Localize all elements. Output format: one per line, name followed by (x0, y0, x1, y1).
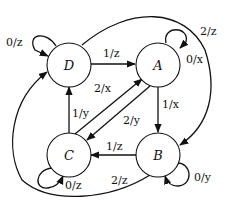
label-c-a: 2/x (94, 82, 112, 95)
label-c-d: 1/y (72, 107, 90, 120)
state-c: C (47, 133, 91, 177)
label-b-c: 1/z (106, 140, 123, 153)
state-d-label: D (63, 58, 75, 73)
label-c-c: 0/z (65, 179, 82, 192)
state-d: D (47, 43, 91, 87)
state-b-label: B (152, 148, 163, 163)
label-b-d: 2/z (111, 174, 128, 187)
label-d-a: 1/z (103, 47, 120, 60)
label-b-b: 0/y (194, 171, 212, 184)
state-c-label: C (64, 148, 74, 163)
state-b: B (136, 133, 180, 177)
state-diagram: D A C B 0/z 1/z 0/x 2/z 1/x 2/x 2/y 1/y … (0, 0, 228, 217)
edge-b-d (13, 72, 150, 196)
label-d-d: 0/z (6, 36, 23, 49)
state-a-label: A (152, 58, 162, 73)
label-a-b: 1/x (162, 98, 180, 111)
label-a-c: 2/y (123, 114, 141, 127)
label-d-b: 2/z (200, 25, 217, 38)
label-a-a: 0/x (186, 53, 204, 66)
state-a: A (136, 43, 180, 87)
